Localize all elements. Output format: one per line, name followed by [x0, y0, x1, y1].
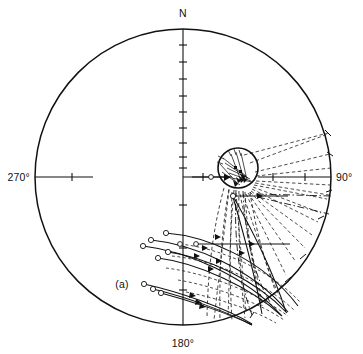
- dashed-ray-l3: [254, 185, 327, 199]
- cluster-tick-2: [234, 149, 236, 155]
- origin-marker-3: [140, 243, 145, 248]
- rim-tick-7: [250, 312, 254, 318]
- cluster-tick-3: [239, 150, 241, 156]
- label-north: N: [179, 7, 187, 19]
- label-south: 180°: [172, 337, 195, 349]
- origin-marker-10: [178, 242, 183, 247]
- origin-marker-9: [230, 193, 235, 198]
- cluster-dot-1: [234, 166, 237, 169]
- dashed-ray-u1: [244, 133, 328, 155]
- origin-marker-1: [163, 230, 168, 235]
- dashed-ray-l13: [228, 192, 232, 318]
- dashed-ray-u2: [250, 134, 328, 163]
- origin-marker-12: [209, 175, 214, 180]
- origin-marker-6: [141, 281, 146, 286]
- origin-marker-5: [155, 255, 160, 260]
- arrowhead-12: [239, 250, 245, 256]
- dashed-ray-l2: [255, 183, 329, 195]
- arrowhead-9: [249, 241, 255, 247]
- origin-marker-4: [165, 249, 170, 254]
- label-west: 270°: [7, 171, 30, 183]
- dashed-ray-l1: [256, 181, 330, 185]
- cluster-tick-1: [228, 150, 231, 156]
- stereonet-plot: N 90° 180° 270° (a): [0, 0, 363, 354]
- rim-tick-4: [318, 216, 324, 219]
- rim-tick-3: [326, 190, 332, 192]
- dashed-curve-d3: [230, 190, 234, 321]
- origin-marker-2: [148, 237, 153, 242]
- arrowhead-6: [189, 292, 196, 298]
- arrowhead-2: [202, 245, 208, 251]
- dashed-ray-l8: [248, 193, 296, 262]
- origin-marker-11: [194, 242, 199, 247]
- solid-arc-8: [161, 293, 252, 325]
- rim-tick-5: [300, 254, 306, 259]
- solid-arc-4: [168, 252, 287, 313]
- origin-marker-8: [158, 290, 163, 295]
- cluster-dot-2: [239, 170, 242, 173]
- figure-panel: N 90° 180° 270° (a): [0, 0, 363, 354]
- panel-label: (a): [115, 278, 128, 290]
- dashed-fan-upper: [244, 133, 331, 176]
- arrowhead-1: [215, 234, 221, 240]
- dash-dot-curves: [236, 190, 331, 315]
- origin-marker-7: [150, 286, 155, 291]
- label-east: 90°: [336, 171, 352, 183]
